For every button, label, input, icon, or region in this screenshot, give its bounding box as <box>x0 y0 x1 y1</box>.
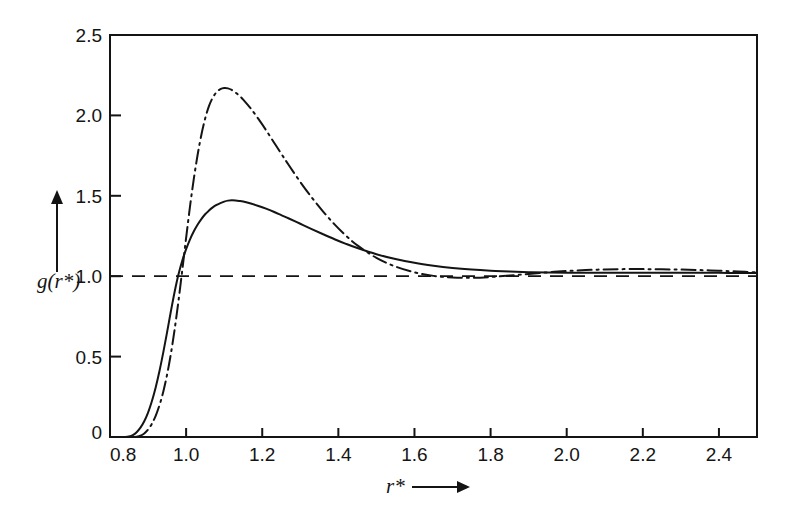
y-axis-label-group: g(r*) <box>37 190 80 293</box>
series-line-solid-curve <box>110 200 757 437</box>
x-axis-label: r* <box>386 474 405 498</box>
x-axis-tick-label: 1.0 <box>173 444 199 465</box>
y-axis-tick-labels: 00.51.01.52.02.5 <box>76 25 102 443</box>
plot-frame <box>110 35 757 437</box>
x-axis-tick-label: 2.4 <box>706 444 733 465</box>
x-axis-tick-label: 1.8 <box>477 444 503 465</box>
y-axis-ticks <box>110 35 121 357</box>
x-axis-tick-label: 2.2 <box>630 444 656 465</box>
y-axis-tick-label: 2.0 <box>76 105 102 126</box>
arrow-up-head-icon <box>51 190 63 204</box>
series-line-dash-dot-curve <box>110 88 757 437</box>
data-series <box>110 88 757 437</box>
y-axis-tick-label: 0.5 <box>76 347 102 368</box>
figure-container: 0.81.01.21.41.61.82.02.22.4 00.51.01.52.… <box>0 0 795 509</box>
x-axis-tick-label: 1.2 <box>249 444 275 465</box>
x-axis-tick-label: 1.4 <box>325 444 352 465</box>
y-axis-tick-label: 0 <box>91 422 102 443</box>
x-axis-tick-label: 0.8 <box>110 444 136 465</box>
x-axis-tick-label: 1.6 <box>401 444 427 465</box>
x-axis-tick-label: 2.0 <box>553 444 579 465</box>
axes-frame-border <box>110 35 757 437</box>
arrow-right-head-icon <box>457 481 470 493</box>
x-axis-tick-labels: 0.81.01.21.41.61.82.02.22.4 <box>110 444 733 465</box>
x-axis-label-group: r* <box>386 474 470 498</box>
y-axis-tick-label: 1.5 <box>76 186 102 207</box>
y-axis-label: g(r*) <box>37 269 80 293</box>
x-axis-ticks <box>186 428 719 437</box>
y-axis-tick-label: 2.5 <box>76 25 102 46</box>
chart-canvas: 0.81.01.21.41.61.82.02.22.4 00.51.01.52.… <box>0 0 795 509</box>
